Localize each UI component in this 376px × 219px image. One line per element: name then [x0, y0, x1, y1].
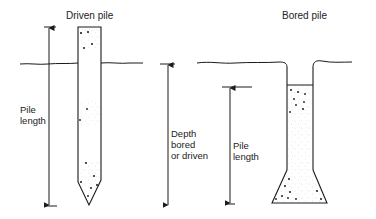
driven-pile-length-line2: length	[20, 115, 46, 126]
pile-diagram	[0, 0, 376, 219]
depth-bored-or-driven-label: Depth bored or driven	[171, 128, 208, 161]
bored-pile-length-line1: Pile	[233, 140, 259, 151]
bored-pile-length-line2: length	[233, 151, 259, 162]
bored-pile-title: Bored pile	[282, 10, 327, 21]
pile-length-dimension-left	[44, 27, 57, 206]
depth-label-line2: bored	[171, 139, 208, 150]
driven-pile-shape	[78, 27, 101, 205]
driven-pile-length-label: Pile length	[20, 104, 46, 126]
depth-label-line1: Depth	[171, 128, 208, 139]
bored-pile-shape	[272, 67, 327, 203]
depth-label-line3: or driven	[171, 150, 208, 161]
driven-pile-title: Driven pile	[66, 10, 113, 21]
bored-pile-length-label: Pile length	[233, 140, 259, 162]
driven-pile-length-line1: Pile	[20, 104, 46, 115]
ground-line-right	[197, 61, 352, 67]
